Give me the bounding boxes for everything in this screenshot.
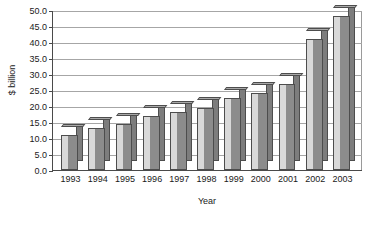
bar-front-face [251,93,268,170]
x-axis-tick-label: 2000 [251,174,271,184]
x-axis-tick-label: 1999 [224,174,244,184]
bar [224,98,241,170]
bar [197,108,214,170]
y-axis-tick-label: 35.0 [29,54,47,64]
y-axis-tick-label: 45.0 [29,22,47,32]
bar-front-face [88,128,105,170]
bar-front-face [61,135,78,170]
bar [143,116,160,170]
bar-front-face [197,108,214,170]
bar [170,112,187,170]
bar-front-face [143,116,160,170]
bar [61,135,78,170]
y-axis-tick-label: 10.0 [29,134,47,144]
bar-top-face [224,87,248,90]
plot-area [52,11,362,171]
x-axis-tick-labels: 1993199419951996199719981999200020012002… [52,174,362,188]
y-axis-tick-label: 30.0 [29,70,47,80]
bar-top-face [333,5,357,8]
x-axis-tick-label: 1996 [142,174,162,184]
y-axis-tick-mark [49,171,53,172]
y-axis-tick-label: 50.0 [29,6,47,16]
x-axis-tick-label: 1997 [169,174,189,184]
x-axis-tick-label: 1995 [115,174,135,184]
bar-top-face [88,117,112,120]
y-axis-tick-label: 25.0 [29,86,47,96]
bar [116,124,133,170]
x-axis-tick-label: 1994 [88,174,108,184]
bar-chart: $ billion 0.05.010.015.020.025.030.035.0… [0,0,379,225]
y-axis-tick-labels: 0.05.010.015.020.025.030.035.040.045.050… [16,11,50,171]
x-axis-tick-label: 2003 [332,174,352,184]
bar-front-face [116,124,133,170]
bar-top-face [251,82,275,85]
bar-front-face [224,98,241,170]
x-axis-tick-label: 2002 [305,174,325,184]
bar-front-face [333,16,350,170]
bar [279,84,296,170]
x-axis-tick-label: 1993 [61,174,81,184]
y-axis-tick-label: 5.0 [34,150,47,160]
y-axis-tick-label: 20.0 [29,102,47,112]
y-axis-tick-label: 0.0 [34,166,47,176]
bar [306,39,323,170]
bar [88,128,105,170]
bar-top-face [61,124,85,127]
bar [251,93,268,170]
y-axis-tick-label: 40.0 [29,38,47,48]
bar-front-face [306,39,323,170]
x-axis-tick-label: 1998 [196,174,216,184]
x-axis-title: Year [52,196,362,206]
bar-series [53,11,362,170]
bar-top-face [170,101,194,104]
bar-top-face [143,105,167,108]
bar-top-face [306,28,330,31]
x-axis-tick-label: 2001 [278,174,298,184]
bar-top-face [279,73,303,76]
bar-top-face [116,113,140,116]
bar [333,16,350,170]
bar-front-face [170,112,187,170]
bar-top-face [197,97,221,100]
bar-front-face [279,84,296,170]
y-axis-tick-label: 15.0 [29,118,47,128]
